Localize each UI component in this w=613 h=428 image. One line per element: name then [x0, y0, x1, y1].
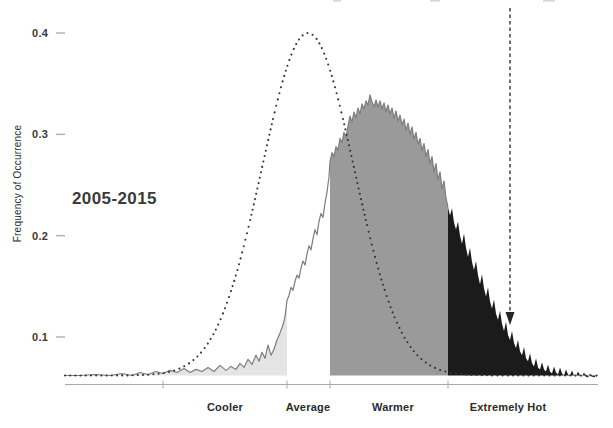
y-tick-label-01: 0.1 — [18, 331, 48, 343]
x-category-cooler: Cooler — [207, 401, 243, 413]
x-category-average: Average — [286, 401, 330, 413]
chart-canvas — [0, 0, 613, 428]
climate-frequency-chart: Frequency of Occurrence 0.4 0.3 0.2 0.1 … — [0, 0, 613, 428]
y-tick-label-02: 0.2 — [18, 230, 48, 242]
x-category-extremely-hot: Extremely Hot — [470, 401, 547, 413]
warmer-area — [65, 95, 597, 378]
period-label: 2005-2015 — [72, 189, 157, 209]
annotation-arrow-head — [506, 312, 515, 325]
crop-artifact — [333, 0, 341, 2]
crop-artifact — [430, 0, 440, 2]
y-tick-label-03: 0.3 — [18, 128, 48, 140]
x-category-warmer: Warmer — [372, 401, 414, 413]
y-tick-label-04: 0.4 — [18, 27, 48, 39]
crop-artifact — [543, 0, 555, 2]
